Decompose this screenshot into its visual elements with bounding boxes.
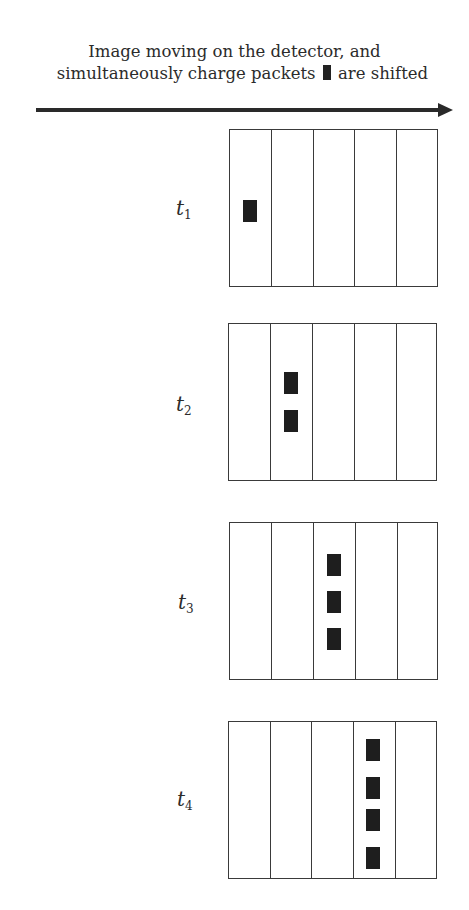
caption-line-2-end: are shifted — [338, 64, 428, 83]
time-label-t2: t2 — [176, 392, 192, 418]
time-label-subscript: 2 — [184, 404, 192, 418]
charge-packet-icon — [323, 65, 331, 80]
column-divider — [396, 324, 397, 480]
charge-packet — [366, 809, 380, 831]
charge-packet — [366, 739, 380, 761]
column-divider — [353, 722, 354, 878]
time-label-letter: t — [177, 787, 185, 811]
time-label-subscript: 4 — [185, 799, 193, 813]
time-label-letter: t — [176, 196, 184, 220]
column-divider — [311, 722, 312, 878]
charge-packet — [327, 591, 341, 613]
column-divider — [355, 523, 356, 679]
detector-panel-t2 — [228, 323, 437, 481]
column-divider — [271, 523, 272, 679]
charge-packet — [366, 777, 380, 799]
column-divider — [354, 130, 355, 286]
charge-packet — [366, 847, 380, 869]
time-label-letter: t — [178, 590, 186, 614]
column-divider — [354, 324, 355, 480]
column-divider — [312, 324, 313, 480]
column-divider — [396, 130, 397, 286]
column-divider — [270, 722, 271, 878]
charge-packet — [327, 628, 341, 650]
charge-packet — [284, 410, 298, 432]
detector-panel-t4 — [228, 721, 437, 879]
detector-panel-t3 — [229, 522, 438, 680]
caption-line-2-start: simultaneously charge packets — [57, 64, 316, 83]
arrow-shaft — [36, 108, 440, 112]
time-label-subscript: 3 — [186, 602, 194, 616]
time-label-subscript: 1 — [184, 208, 192, 222]
time-label-t4: t4 — [177, 787, 193, 813]
column-divider — [270, 324, 271, 480]
column-divider — [313, 130, 314, 286]
column-divider — [313, 523, 314, 679]
caption-line-1: Image moving on the detector, and — [0, 41, 469, 62]
caption-line-2: simultaneously charge packets are shifte… — [8, 63, 469, 84]
time-label-letter: t — [176, 392, 184, 416]
column-divider — [397, 523, 398, 679]
time-label-t3: t3 — [178, 590, 194, 616]
detector-panel-t1 — [229, 129, 438, 287]
charge-packet — [284, 372, 298, 394]
charge-packet — [327, 554, 341, 576]
arrow-right-icon — [438, 103, 453, 117]
time-label-t1: t1 — [176, 196, 192, 222]
column-divider — [395, 722, 396, 878]
column-divider — [271, 130, 272, 286]
charge-packet — [243, 200, 257, 222]
